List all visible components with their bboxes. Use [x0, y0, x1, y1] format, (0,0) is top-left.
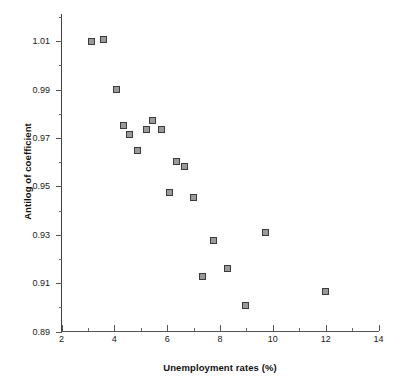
- x-tick-minor: [194, 328, 195, 331]
- data-point-marker: [242, 302, 249, 309]
- y-tick-minor: [59, 114, 62, 115]
- x-axis-title: Unemployment rates (%): [61, 362, 379, 373]
- data-point-marker: [100, 36, 107, 43]
- y-tick-label: 1.01: [6, 36, 50, 46]
- data-point-marker: [120, 122, 127, 129]
- x-tick-label: 4: [99, 334, 129, 345]
- x-axis-line: [61, 331, 379, 332]
- data-point-marker: [210, 237, 217, 244]
- data-point-marker: [149, 117, 156, 124]
- x-tick-label: 6: [152, 334, 182, 345]
- y-tick-major: [56, 41, 62, 42]
- data-point-marker: [134, 147, 141, 154]
- data-point-marker: [126, 131, 133, 138]
- data-point-marker: [322, 288, 329, 295]
- data-point-marker: [143, 126, 150, 133]
- y-axis-title: Antilog of coefficient: [22, 77, 33, 267]
- data-point-marker: [88, 38, 95, 45]
- data-point-marker: [199, 273, 206, 280]
- x-tick-label: 2: [47, 334, 77, 345]
- y-tick-minor: [59, 307, 62, 308]
- x-tick-major: [220, 325, 221, 331]
- scatter-plot-figure: 24681012140.890.910.930.950.970.991.01 U…: [0, 0, 419, 383]
- plot-area: [61, 14, 379, 332]
- y-tick-minor: [59, 259, 62, 260]
- data-point-marker: [158, 126, 165, 133]
- x-tick-label: 10: [258, 334, 288, 345]
- data-point-marker: [181, 163, 188, 170]
- x-tick-minor: [352, 328, 353, 331]
- y-tick-major: [56, 186, 62, 187]
- x-tick-major: [114, 325, 115, 331]
- y-tick-label: 0.91: [6, 278, 50, 288]
- y-axis-line: [61, 14, 62, 332]
- y-tick-major: [56, 283, 62, 284]
- y-tick-minor: [59, 65, 62, 66]
- x-tick-major: [273, 325, 274, 331]
- y-tick-major: [56, 90, 62, 91]
- x-tick-label: 14: [364, 334, 394, 345]
- y-tick-minor: [59, 162, 62, 163]
- x-tick-minor: [88, 328, 89, 331]
- data-point-marker: [224, 265, 231, 272]
- data-point-marker: [113, 86, 120, 93]
- x-tick-major: [326, 325, 327, 331]
- y-tick-major: [56, 235, 62, 236]
- x-tick-label: 8: [205, 334, 235, 345]
- x-tick-major: [167, 325, 168, 331]
- y-tick-major: [56, 138, 62, 139]
- y-tick-label: 0.89: [6, 327, 50, 337]
- y-tick-major: [56, 332, 62, 333]
- x-tick-major: [379, 325, 380, 331]
- data-point-marker: [173, 158, 180, 165]
- x-tick-minor: [141, 328, 142, 331]
- y-tick-minor: [59, 211, 62, 212]
- x-tick-major: [62, 325, 63, 331]
- y-tick-minor: [59, 17, 62, 18]
- data-point-marker: [190, 194, 197, 201]
- x-tick-minor: [246, 328, 247, 331]
- data-point-marker: [262, 229, 269, 236]
- data-point-marker: [166, 189, 173, 196]
- x-tick-label: 12: [311, 334, 341, 345]
- x-tick-minor: [299, 328, 300, 331]
